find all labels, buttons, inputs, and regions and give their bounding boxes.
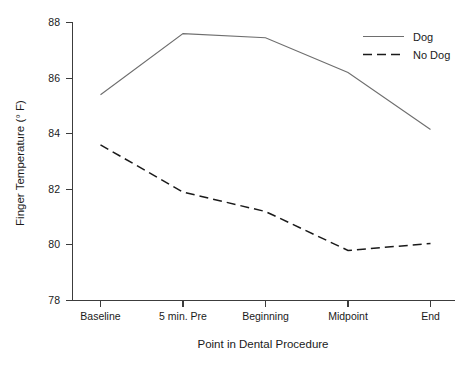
series-line-dog: [101, 34, 431, 130]
y-tick-label-86: 86: [48, 72, 60, 84]
line-chart: 88 86 84 82 80 78 Baseline 5 min. Pre Be…: [0, 0, 468, 367]
legend-label-no-dog: No Dog: [413, 49, 450, 61]
x-tick-label-baseline: Baseline: [80, 310, 120, 322]
x-tick-label-beginning: Beginning: [242, 310, 289, 322]
chart-canvas: 88 86 84 82 80 78 Baseline 5 min. Pre Be…: [0, 0, 468, 367]
x-tick-label-5-min-pre: 5 min. Pre: [159, 310, 207, 322]
x-tick-label-midpoint: Midpoint: [328, 310, 368, 322]
y-axis-title: Finger Temperature (° F): [14, 100, 26, 226]
y-tick-label-82: 82: [48, 183, 60, 195]
y-tick-marks: [66, 23, 73, 301]
legend-label-dog: Dog: [413, 31, 433, 43]
y-tick-label-84: 84: [48, 127, 60, 139]
legend: Dog No Dog: [363, 31, 450, 61]
series-line-no-dog: [101, 145, 431, 251]
y-tick-label-80: 80: [48, 238, 60, 250]
x-axis-title: Point in Dental Procedure: [197, 338, 328, 350]
y-tick-label-88: 88: [48, 16, 60, 28]
x-tick-label-end: End: [421, 310, 440, 322]
y-tick-label-78: 78: [48, 294, 60, 306]
x-tick-marks: [101, 301, 431, 308]
